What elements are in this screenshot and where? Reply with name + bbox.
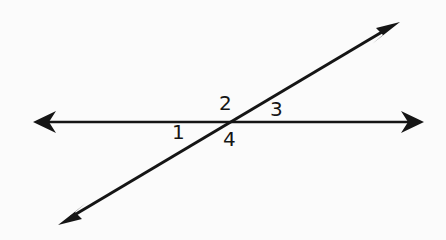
angle-label-1: 1 [172,122,185,142]
arrowhead-upper-right-group [372,22,400,44]
arrowhead-lower-left-icon [58,203,86,225]
geometry-diagram-canvas: 1 2 3 4 [0,0,446,240]
geometry-figure [0,0,446,240]
arrowhead-lower-left-group [58,203,86,225]
angle-label-4: 4 [223,129,236,149]
arrowhead-upper-right-icon [372,22,400,44]
angle-label-2: 2 [219,93,232,113]
angle-label-3: 3 [270,99,283,119]
